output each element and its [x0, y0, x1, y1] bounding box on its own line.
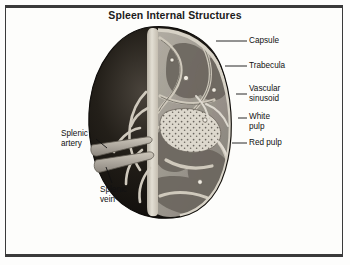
- spleen-diagram-figure: Spleen Internal Structures: [0, 0, 350, 265]
- spleen-cross-section: [150, 24, 240, 222]
- spleen-illustration: [0, 0, 350, 265]
- label-trabecula: Trabecula: [249, 61, 285, 71]
- label-splenic-vein: Splenic vein: [100, 185, 127, 204]
- label-red-pulp: Red pulp: [249, 138, 282, 148]
- label-white-pulp: White pulp: [249, 112, 270, 131]
- label-vascular-sinusoid: Vascular sinusoid: [249, 84, 280, 103]
- label-capsule: Capsule: [249, 36, 279, 46]
- label-splenic-artery: Splenic artery: [61, 129, 88, 148]
